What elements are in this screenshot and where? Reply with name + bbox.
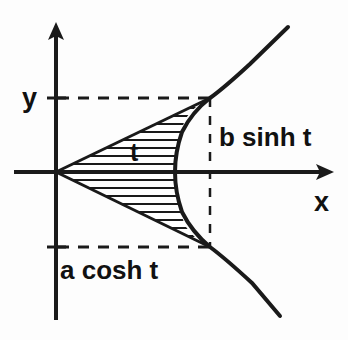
y-axis-label: y — [22, 85, 37, 112]
figure-canvas — [0, 0, 348, 340]
sector-parameter-label: t — [130, 140, 138, 165]
b-sinh-t-label: b sinh t — [219, 124, 311, 150]
x-axis-label: x — [314, 189, 329, 216]
hyperbola-figure: y x t b sinh t a cosh t — [0, 0, 348, 340]
a-cosh-t-label: a cosh t — [60, 257, 158, 283]
